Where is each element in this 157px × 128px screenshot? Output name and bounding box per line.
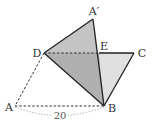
triangle-ecb — [99, 53, 134, 106]
label-a: A — [4, 101, 14, 114]
label-d: D — [33, 47, 42, 60]
label-a-prime: A′ — [88, 5, 100, 18]
dashed-da — [15, 53, 44, 106]
label-b: B — [108, 102, 116, 115]
measure-label: 20 — [54, 110, 67, 121]
fold-diagram: 20 A′ D E C A B — [0, 0, 157, 128]
label-c: C — [138, 47, 146, 60]
label-e: E — [100, 40, 108, 53]
